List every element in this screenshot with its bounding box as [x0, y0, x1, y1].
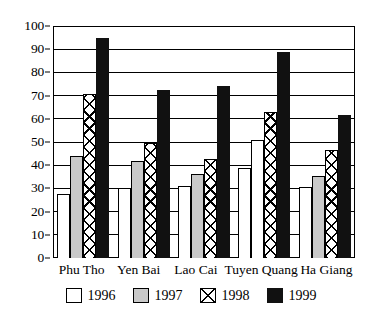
y-tick-label-100: 100: [24, 19, 44, 33]
bar-ha-giang-1997: [312, 176, 325, 258]
bar-yen-bai-1997: [131, 161, 144, 258]
legend-swatch-1997: [133, 288, 149, 303]
bar-yen-bai-1999: [157, 90, 170, 258]
bar-chart: 0102030405060708090100 Phu ThoYen BaiLao…: [0, 0, 382, 323]
bar-tuyen-quang-1997: [251, 140, 264, 258]
legend-label-1997: 1997: [155, 289, 183, 303]
y-tick-label-50: 50: [31, 135, 44, 149]
bar-tuyen-quang-1996: [238, 168, 251, 258]
y-tick-mark-50: [45, 142, 50, 143]
bar-phu-tho-1998: [83, 94, 96, 258]
bar-phu-tho-1997: [70, 156, 83, 258]
legend-item-1998[interactable]: 1998: [200, 288, 250, 303]
legend-item-1999[interactable]: 1999: [267, 288, 317, 303]
y-tick-mark-70: [45, 95, 50, 96]
y-tick-label-80: 80: [31, 66, 44, 80]
x-label-ha-giang: Ha Giang: [298, 261, 355, 283]
legend-label-1996: 1996: [88, 289, 116, 303]
legend-swatch-1999: [267, 288, 283, 303]
x-label-tuyen-quang: Tuyen Quang: [224, 261, 297, 283]
bar-phu-tho-1999: [96, 38, 109, 258]
legend-item-1996[interactable]: 1996: [66, 288, 116, 303]
bar-ha-giang-1998: [325, 150, 338, 258]
y-tick-label-40: 40: [31, 158, 44, 172]
y-tick-mark-90: [45, 49, 50, 50]
bar-group-lao-cai: [174, 26, 234, 258]
y-axis: 0102030405060708090100: [0, 26, 50, 258]
y-tick-mark-80: [45, 72, 50, 73]
y-tick-mark-30: [45, 188, 50, 189]
bar-group-yen-bai: [113, 26, 173, 258]
y-tick-label-70: 70: [31, 89, 44, 103]
bar-lao-cai-1997: [191, 174, 204, 258]
y-tick-label-90: 90: [31, 42, 44, 56]
bar-lao-cai-1998: [204, 159, 217, 258]
legend-label-1999: 1999: [289, 289, 317, 303]
x-label-yen-bai: Yen Bai: [110, 261, 167, 283]
y-tick-mark-60: [45, 118, 50, 119]
bar-phu-tho-1996: [57, 194, 70, 258]
bar-lao-cai-1996: [178, 186, 191, 258]
legend-swatch-1998: [200, 288, 216, 303]
legend-item-1997[interactable]: 1997: [133, 288, 183, 303]
legend-label-1998: 1998: [222, 289, 250, 303]
y-tick-label-20: 20: [31, 205, 44, 219]
bar-lao-cai-1999: [217, 86, 230, 258]
y-tick-mark-20: [45, 211, 50, 212]
bar-group-ha-giang: [295, 26, 355, 258]
bar-tuyen-quang-1999: [277, 52, 290, 258]
y-tick-label-60: 60: [31, 112, 44, 126]
y-tick-label-0: 0: [37, 251, 44, 265]
x-label-phu-tho: Phu Tho: [53, 261, 110, 283]
y-tick-mark-100: [45, 26, 50, 27]
x-axis-category-labels: Phu ThoYen BaiLao CaiTuyen QuangHa Giang: [53, 261, 355, 283]
y-tick-mark-0: [45, 258, 50, 259]
y-tick-mark-40: [45, 165, 50, 166]
y-tick-label-10: 10: [31, 228, 44, 242]
x-label-lao-cai: Lao Cai: [167, 261, 224, 283]
bar-yen-bai-1998: [144, 143, 157, 258]
y-tick-label-30: 30: [31, 182, 44, 196]
bar-tuyen-quang-1998: [264, 112, 277, 258]
y-tick-mark-10: [45, 234, 50, 235]
bar-yen-bai-1996: [118, 188, 131, 258]
bar-group-phu-tho: [53, 26, 113, 258]
bar-ha-giang-1999: [338, 115, 351, 258]
legend-swatch-1996: [66, 288, 82, 303]
chart-legend: 1996199719981999: [0, 288, 382, 303]
bar-group-tuyen-quang: [234, 26, 294, 258]
bars-layer: [53, 26, 355, 258]
bar-ha-giang-1996: [299, 187, 312, 258]
